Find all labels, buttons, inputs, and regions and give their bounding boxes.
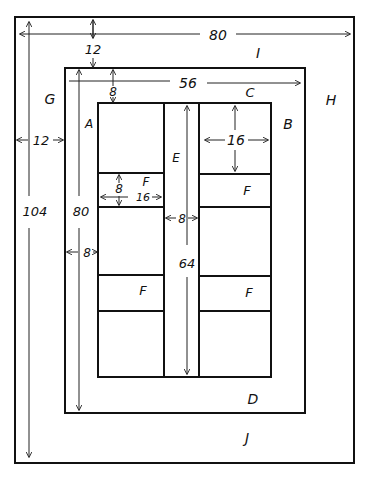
label-f-upper-left: F bbox=[143, 175, 151, 189]
label-c: C bbox=[245, 85, 255, 100]
dim-outer-height: 104 bbox=[23, 204, 48, 219]
dim-center-gap: 8 bbox=[178, 212, 186, 226]
dim-middle-margin-top: 8 bbox=[109, 85, 117, 99]
dim-strip-width: 16 bbox=[136, 191, 150, 204]
label-i: I bbox=[256, 45, 260, 61]
dim-panel-size: 16 bbox=[227, 132, 245, 148]
inner-frame bbox=[98, 103, 271, 377]
middle-frame bbox=[65, 68, 305, 413]
dim-outer-margin-side: 12 bbox=[33, 133, 50, 148]
dim-outer-margin-top: 12 bbox=[85, 42, 102, 57]
dim-middle-height: 80 bbox=[73, 204, 90, 219]
label-d: D bbox=[248, 391, 259, 407]
dim-outer-width: 80 bbox=[209, 27, 227, 43]
label-j: J bbox=[242, 430, 249, 446]
label-a: A bbox=[84, 117, 93, 131]
dim-middle-width: 56 bbox=[179, 75, 197, 91]
diagram-canvas: 80 12 104 12 56 8 80 8 64 8 16 8 16 G H … bbox=[0, 0, 366, 478]
label-f-lower-left: F bbox=[139, 283, 147, 298]
label-g: G bbox=[45, 91, 56, 107]
dim-center-length: 64 bbox=[179, 256, 196, 271]
label-b: B bbox=[283, 116, 293, 132]
label-f-lower-right: F bbox=[245, 285, 253, 300]
label-e: E bbox=[172, 151, 180, 165]
label-f-upper-right: F bbox=[243, 183, 251, 198]
label-h: H bbox=[326, 92, 337, 108]
dim-middle-margin-side: 8 bbox=[83, 246, 91, 260]
dim-strip-height: 8 bbox=[115, 182, 123, 196]
